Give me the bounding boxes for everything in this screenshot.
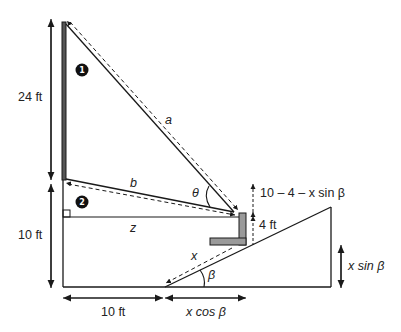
label-x: x	[190, 249, 198, 263]
label-theta: θ	[192, 186, 199, 200]
label-z: z	[129, 221, 137, 235]
line-x	[166, 248, 232, 283]
label-b: b	[130, 176, 137, 190]
marker-1: 1	[76, 64, 89, 77]
ramp	[165, 207, 331, 287]
beta-arc	[200, 270, 205, 287]
label-eye-offset: 10 – 4 – x sin β	[260, 186, 345, 200]
label-4ft: 4 ft	[259, 218, 277, 232]
marker-2-label: 2	[79, 198, 85, 207]
viewer-figure	[210, 213, 246, 245]
geometry-diagram: 1 2 24 ft 10 ft 10 ft x cos β x sin β 10…	[0, 0, 401, 332]
theta-arc	[206, 186, 210, 207]
diagram-canvas: 1 2 24 ft 10 ft 10 ft x cos β x sin β 10…	[0, 0, 401, 332]
label-24ft: 24 ft	[18, 90, 43, 104]
marker-1-label: 1	[79, 66, 85, 75]
label-beta: β	[207, 268, 215, 282]
label-a: a	[165, 113, 172, 127]
line-a	[66, 21, 238, 212]
marker-2: 2	[76, 196, 89, 209]
label-10ft-horizontal: 10 ft	[101, 305, 126, 319]
pole	[62, 22, 66, 180]
label-x-sin-beta: x sin β	[347, 259, 384, 273]
label-10ft-vertical: 10 ft	[18, 228, 43, 242]
label-x-cos-beta: x cos β	[185, 305, 226, 319]
